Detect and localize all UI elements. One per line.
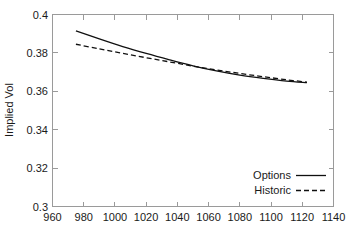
x-tick-label: 960	[43, 211, 61, 223]
legend-label-options: Options	[253, 169, 291, 181]
legend-label-historic: Historic	[254, 184, 291, 196]
y-tick-label: 0.34	[27, 124, 48, 136]
x-tick-label: 1020	[134, 211, 158, 223]
x-tick-label: 1120	[290, 211, 314, 223]
chart-figure: 0.3 0.32 0.34 0.36 0.38 0.4 960 980 1000…	[0, 0, 348, 229]
y-tick-label: 0.4	[33, 9, 48, 21]
y-tick-label: 0.32	[27, 162, 48, 174]
x-tick-label: 1100	[259, 211, 283, 223]
y-tick-label: 0.38	[27, 47, 48, 59]
y-axis-title: Implied Vol	[3, 83, 15, 137]
x-tick-label: 980	[75, 211, 93, 223]
implied-vol-line-chart: 0.3 0.32 0.34 0.36 0.38 0.4 960 980 1000…	[0, 0, 348, 229]
x-tick-label: 1060	[196, 211, 220, 223]
x-tick-label: 1080	[228, 211, 252, 223]
x-tick-label: 1040	[165, 211, 189, 223]
x-tick-label: 1000	[103, 211, 127, 223]
x-tick-label: 1140	[322, 211, 346, 223]
y-tick-label: 0.36	[27, 85, 48, 97]
